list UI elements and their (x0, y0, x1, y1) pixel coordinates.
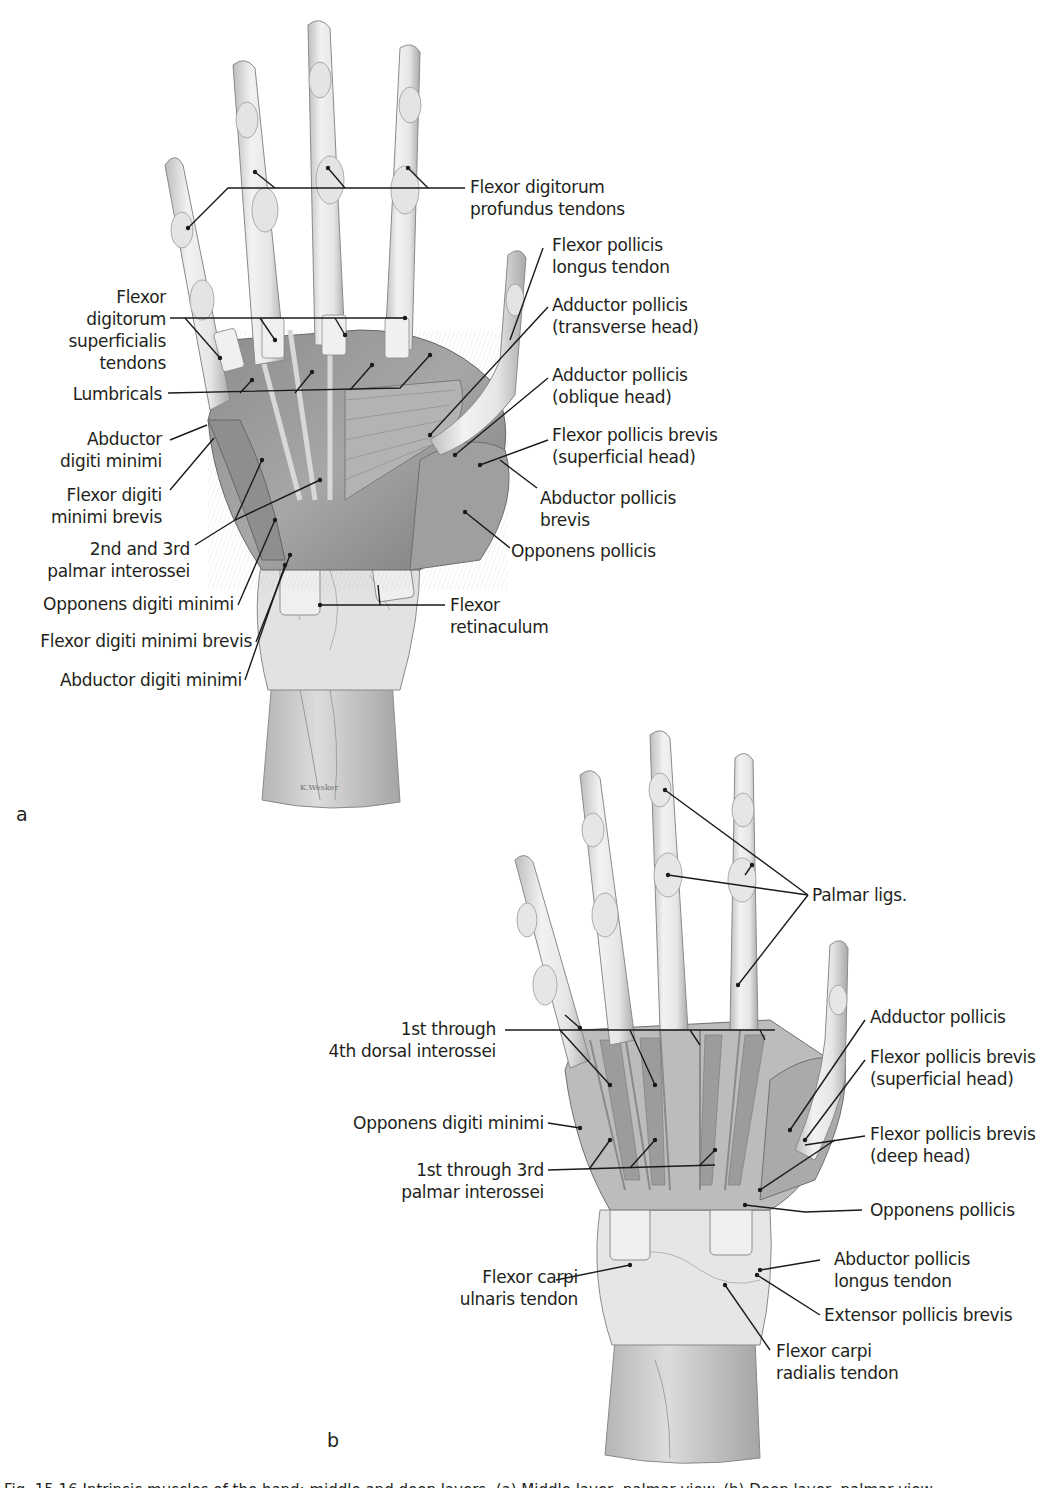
label-lumbricals: Lumbricals (50, 383, 162, 405)
label-fds-tendons: Flexor digitorum superficialis tendons (60, 286, 166, 374)
svg-text:K.Wesker: K.Wesker (300, 783, 339, 792)
figure-caption-text: Fig. 15.16 Intrinsic muscles of the hand… (4, 1481, 936, 1488)
label-extensor-pollicis-brevis: Extensor pollicis brevis (824, 1304, 1012, 1326)
label-dorsal-interossei: 1st through 4th dorsal interossei (280, 1018, 496, 1062)
label-flexor-digiti-minimi-brevis: Flexor digiti minimi brevis (40, 484, 162, 528)
label-adductor-pollicis-oblique: Adductor pollicis (oblique head) (552, 364, 688, 408)
label-opponens-pollicis-b: Opponens pollicis (870, 1199, 1015, 1221)
panel-letter-b: b (327, 1429, 339, 1451)
label-opponens-pollicis: Opponens pollicis (511, 540, 656, 562)
label-apl-tendon: Abductor pollicis longus tendon (834, 1248, 970, 1292)
anatomy-figure: K.Wesker (0, 0, 1059, 1488)
label-opponens-digiti-minimi: Opponens digiti minimi (20, 593, 234, 615)
label-palmar-interossei-2-3: 2nd and 3rd palmar interossei (40, 538, 190, 582)
label-palmar-interossei-1-3: 1st through 3rd palmar interossei (340, 1159, 544, 1203)
label-fpb-superficial-b: Flexor pollicis brevis (superficial head… (870, 1046, 1036, 1090)
label-fcr-tendon: Flexor carpi radialis tendon (776, 1340, 898, 1384)
panel-letter-a: a (16, 803, 28, 825)
label-flexor-retinaculum: Flexor retinaculum (450, 594, 549, 638)
label-adductor-pollicis-transverse: Adductor pollicis (transverse head) (552, 294, 699, 338)
label-adductor-pollicis: Adductor pollicis (870, 1006, 1006, 1028)
label-fpl-tendon: Flexor pollicis longus tendon (552, 234, 670, 278)
label-fpb-deep: Flexor pollicis brevis (deep head) (870, 1123, 1036, 1167)
label-fcu-tendon: Flexor carpi ulnaris tendon (400, 1266, 578, 1310)
label-abductor-digiti-minimi-2: Abductor digiti minimi (30, 669, 242, 691)
label-abductor-pollicis-brevis: Abductor pollicis brevis (540, 487, 676, 531)
label-abductor-digiti-minimi: Abductor digiti minimi (40, 428, 162, 472)
label-fpb-superficial: Flexor pollicis brevis (superficial head… (552, 424, 718, 468)
label-palmar-ligs: Palmar ligs. (812, 884, 907, 906)
figure-caption: Fig. 15.16 Intrinsic muscles of the hand… (0, 1478, 1059, 1488)
label-flexor-digiti-minimi-brevis-2: Flexor digiti minimi brevis (10, 630, 252, 652)
label-opponens-digiti-minimi-b: Opponens digiti minimi (300, 1112, 544, 1134)
label-fdp-tendons: Flexor digitorum profundus tendons (470, 176, 625, 220)
